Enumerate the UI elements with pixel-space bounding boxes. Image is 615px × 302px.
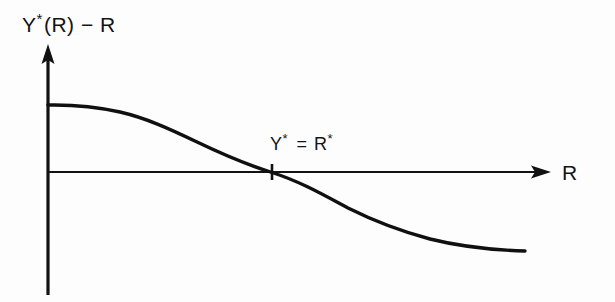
- annotation-star-2: *: [328, 131, 334, 146]
- y-star-minus-r-curve: [48, 105, 525, 251]
- annotation-r: R: [314, 134, 328, 154]
- figure-container: Y*(R) − R R Y* = R*: [0, 0, 615, 302]
- annotation-y: Y: [270, 134, 283, 154]
- y-axis-label-star: *: [37, 10, 43, 27]
- annotation-star-1: *: [283, 131, 289, 146]
- y-axis-label: Y*(R) − R: [22, 10, 116, 37]
- y-axis-label-y: Y: [22, 13, 37, 36]
- annotation-equals: =: [291, 134, 313, 154]
- diagram-canvas: Y*(R) − R R Y* = R*: [0, 0, 615, 302]
- fixed-point-annotation: Y* = R*: [270, 131, 333, 155]
- x-axis-label: R: [562, 161, 578, 184]
- y-axis-label-rest: (R) − R: [44, 13, 116, 36]
